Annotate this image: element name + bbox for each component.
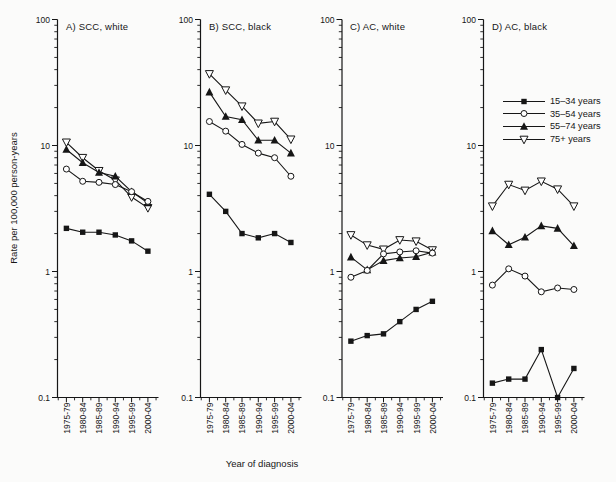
svg-text:1995-99: 1995-99 [270, 402, 280, 433]
svg-text:1985-89: 1985-89 [237, 402, 247, 433]
svg-text:100: 100 [462, 15, 476, 25]
y-axis-title: Rate per 100,000 person-years [8, 132, 19, 264]
svg-text:100: 100 [179, 15, 193, 25]
svg-text:10: 10 [467, 141, 477, 151]
legend-item-55-74: 55–74 years [502, 120, 601, 133]
svg-text:0.1: 0.1 [38, 393, 50, 403]
legend-item-35-54: 35–54 years [502, 108, 601, 121]
svg-text:1980-84: 1980-84 [78, 402, 88, 433]
svg-text:1: 1 [45, 267, 50, 277]
svg-text:1975-79: 1975-79 [62, 402, 72, 433]
svg-text:1: 1 [330, 267, 335, 277]
panel-title-ac-black: D) AC, black [492, 21, 547, 32]
svg-text:1975-79: 1975-79 [488, 402, 498, 433]
svg-text:1975-79: 1975-79 [205, 402, 215, 433]
svg-text:1995-99: 1995-99 [553, 402, 563, 433]
panel-b: 0.11101001975-791980-841985-891990-94199… [179, 15, 302, 434]
circle-open-marker-icon [502, 107, 546, 120]
svg-text:1980-84: 1980-84 [221, 402, 231, 433]
svg-text:1975-79: 1975-79 [346, 402, 356, 433]
figure-incidence-rate-chart: 0.11101001975-791980-841985-891990-94199… [0, 0, 616, 482]
svg-text:10: 10 [41, 141, 51, 151]
svg-text:1: 1 [471, 267, 476, 277]
svg-text:2000-04: 2000-04 [569, 402, 579, 433]
triangle-down-open-marker-icon [502, 133, 546, 146]
chart-canvas: 0.11101001975-791980-841985-891990-94199… [0, 0, 616, 482]
svg-text:1980-84: 1980-84 [363, 402, 373, 433]
legend-item-75plus: 75+ years [502, 133, 601, 146]
triangle-up-filled-marker-icon [502, 120, 546, 133]
legend-item-15-34: 15–34 years [502, 95, 601, 108]
svg-text:0.1: 0.1 [323, 393, 335, 403]
legend-label: 35–54 years [550, 109, 601, 119]
legend-label: 55–74 years [550, 121, 601, 131]
svg-text:1990-94: 1990-94 [395, 402, 405, 433]
legend-label: 75+ years [550, 134, 591, 144]
x-axis-title: Year of diagnosis [226, 458, 299, 469]
panel-a: 0.11101001975-791980-841985-891990-94199… [36, 15, 159, 434]
svg-text:2000-04: 2000-04 [428, 402, 438, 433]
svg-text:2000-04: 2000-04 [286, 402, 296, 433]
panel-title-scc-white: A) SCC, white [66, 21, 128, 32]
svg-text:10: 10 [184, 141, 194, 151]
legend: 15–34 years 35–54 years 55–74 years 75+ … [502, 95, 601, 145]
svg-text:1985-89: 1985-89 [94, 402, 104, 433]
svg-text:0.1: 0.1 [181, 393, 193, 403]
svg-text:1985-89: 1985-89 [520, 402, 530, 433]
svg-text:1985-89: 1985-89 [379, 402, 389, 433]
panel-d: 0.11101001975-791980-841985-891990-94199… [462, 15, 585, 434]
svg-text:2000-04: 2000-04 [143, 402, 153, 433]
svg-text:100: 100 [36, 15, 50, 25]
svg-text:1990-94: 1990-94 [111, 402, 121, 433]
panel-title-scc-black: B) SCC, black [209, 21, 271, 32]
legend-label: 15–34 years [550, 96, 601, 106]
panel-title-ac-white: C) AC, white [350, 21, 405, 32]
svg-text:1980-84: 1980-84 [504, 402, 514, 433]
svg-text:10: 10 [325, 141, 335, 151]
square-filled-marker-icon [502, 95, 546, 108]
svg-text:1990-94: 1990-94 [254, 402, 264, 433]
svg-text:100: 100 [320, 15, 334, 25]
svg-text:1995-99: 1995-99 [127, 402, 137, 433]
svg-text:1990-94: 1990-94 [537, 402, 547, 433]
panel-c: 0.11101001975-791980-841985-891990-94199… [320, 15, 443, 434]
svg-text:1995-99: 1995-99 [412, 402, 422, 433]
svg-text:0.1: 0.1 [464, 393, 476, 403]
svg-text:1: 1 [188, 267, 193, 277]
